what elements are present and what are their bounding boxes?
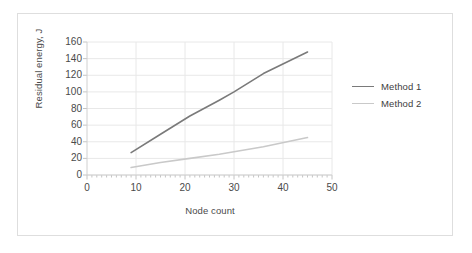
- x-axis-tick-labels: 01020304050: [0, 0, 472, 253]
- legend-line-swatch: [352, 103, 374, 104]
- x-axis-tick-label: 20: [168, 182, 202, 193]
- legend-item-label: Method 2: [381, 98, 421, 109]
- x-axis-tick-label: 30: [217, 182, 251, 193]
- x-axis-tick-label: 50: [315, 182, 349, 193]
- legend-line-swatch: [352, 86, 374, 87]
- x-axis-tick-label: 0: [70, 182, 104, 193]
- legend-item-label: Method 1: [381, 81, 421, 92]
- legend-item[interactable]: Method 2: [352, 95, 421, 112]
- x-axis-tick-label: 10: [119, 182, 153, 193]
- legend-item[interactable]: Method 1: [352, 78, 421, 95]
- chart-legend: Method 1Method 2: [352, 78, 421, 112]
- x-axis-tick-label: 40: [266, 182, 300, 193]
